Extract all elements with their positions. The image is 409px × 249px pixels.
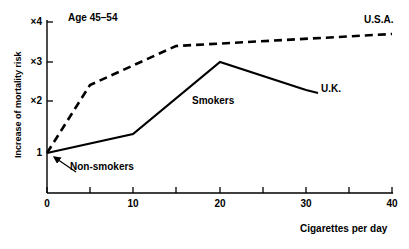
y-tick-label-2: ×2 bbox=[24, 96, 42, 106]
y-axis-title: Increase of mortality risk bbox=[14, 51, 23, 158]
y-tick-label-3: ×3 bbox=[24, 57, 42, 67]
mortality-risk-chart: ×4 ×3 ×2 1 0 10 20 30 40 Increase of mor… bbox=[0, 0, 409, 249]
plot-area bbox=[0, 0, 409, 249]
x-axis-ticks bbox=[47, 187, 392, 193]
y-axis-ticks bbox=[47, 22, 53, 101]
x-tick-label-40: 40 bbox=[382, 199, 402, 209]
series-line-uk bbox=[47, 62, 306, 153]
x-tick-label-20: 20 bbox=[210, 199, 230, 209]
y-tick-label-1: 1 bbox=[24, 148, 42, 158]
smokers-annotation: Smokers bbox=[192, 96, 234, 106]
x-tick-label-0: 0 bbox=[37, 199, 57, 209]
x-tick-label-30: 30 bbox=[296, 199, 316, 209]
uk-series-label: U.K. bbox=[321, 84, 341, 94]
usa-series-label: U.S.A. bbox=[364, 15, 393, 25]
y-tick-label-4: ×4 bbox=[24, 17, 42, 27]
non-smokers-annotation: Non-smokers bbox=[70, 162, 134, 172]
x-axis-title: Cigarettes per day bbox=[300, 224, 387, 234]
panel-title: Age 45–54 bbox=[68, 13, 117, 23]
x-tick-label-10: 10 bbox=[123, 199, 143, 209]
uk-leader-line bbox=[306, 90, 318, 93]
